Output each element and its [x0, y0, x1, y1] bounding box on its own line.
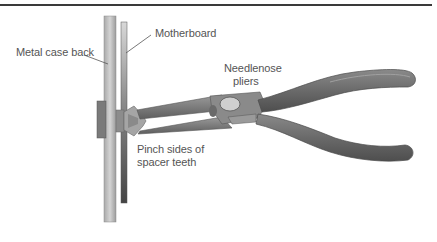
diagram-art: [0, 0, 437, 242]
label-needlenose-line2: pliers: [233, 75, 259, 88]
leader-line-motherboard: [126, 35, 151, 53]
label-metal-case-back: Metal case back: [16, 46, 94, 59]
label-needlenose-line1: Needlenose: [224, 62, 282, 75]
label-motherboard: Motherboard: [155, 27, 216, 40]
label-pinch-line2: spacer teeth: [137, 156, 196, 169]
pliers-handle-lower: [256, 114, 413, 161]
pliers-handle-upper: [258, 70, 415, 113]
pliers-jaws: [137, 92, 266, 134]
label-pinch-line1: Pinch sides of: [137, 143, 204, 156]
